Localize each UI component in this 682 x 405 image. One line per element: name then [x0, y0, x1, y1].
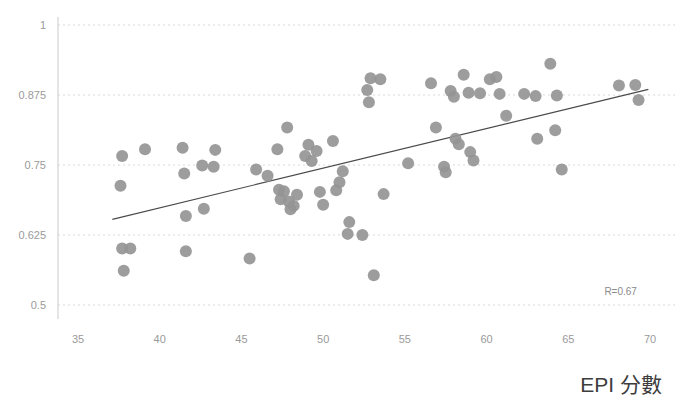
data-point — [458, 69, 470, 81]
x-tick-label-65: 65 — [562, 333, 574, 345]
data-point — [463, 87, 475, 99]
data-point — [114, 180, 126, 192]
x-tick-label-35: 35 — [72, 333, 84, 345]
data-point — [518, 88, 530, 100]
data-point — [425, 77, 437, 89]
data-point — [333, 176, 345, 188]
y-tick-label-0.625: 0.625 — [18, 229, 46, 241]
x-tick-label-45: 45 — [235, 333, 247, 345]
data-point — [490, 71, 502, 83]
data-point — [531, 133, 543, 145]
data-point — [448, 91, 460, 103]
data-point — [337, 165, 349, 177]
data-point — [281, 121, 293, 133]
data-point — [453, 138, 465, 150]
data-point — [430, 121, 442, 133]
data-point — [178, 167, 190, 179]
data-point — [139, 143, 151, 155]
data-point — [530, 90, 542, 102]
data-point — [551, 90, 563, 102]
y-tick-label-1: 1 — [40, 19, 46, 31]
data-point — [288, 200, 300, 212]
trendline — [112, 89, 648, 219]
y-tick-label-0.875: 0.875 — [18, 89, 46, 101]
data-point — [208, 161, 220, 173]
data-point — [327, 135, 339, 147]
data-point — [363, 96, 375, 108]
data-point — [198, 203, 210, 215]
data-point — [317, 199, 329, 211]
data-point — [378, 188, 390, 200]
data-point — [244, 253, 256, 265]
data-point — [116, 150, 128, 162]
x-tick-label-55: 55 — [399, 333, 411, 345]
data-point — [613, 79, 625, 91]
data-point — [291, 189, 303, 201]
data-point — [494, 88, 506, 100]
data-point — [374, 73, 386, 85]
plot-area: 0.50.6250.750.8751 3540455055606570 R=0.… — [0, 0, 682, 405]
x-tick-label-60: 60 — [480, 333, 492, 345]
data-point — [556, 163, 568, 175]
data-point — [474, 87, 486, 99]
data-point — [549, 124, 561, 136]
data-point — [343, 216, 355, 228]
data-point — [467, 155, 479, 167]
data-point — [196, 160, 208, 172]
data-point — [262, 170, 274, 182]
gridlines-group — [58, 25, 676, 305]
data-points-group — [114, 58, 644, 282]
annotations-group: R=0.67 — [604, 286, 637, 297]
correlation-annotation: R=0.67 — [604, 286, 637, 297]
data-point — [271, 143, 283, 155]
data-point — [180, 245, 192, 257]
data-point — [402, 157, 414, 169]
y-tick-labels-group: 0.50.6250.750.8751 — [18, 19, 46, 311]
data-point — [177, 142, 189, 154]
scatter-chart: 0.50.6250.750.8751 3540455055606570 R=0.… — [0, 0, 682, 405]
data-point — [311, 145, 323, 157]
x-tick-labels-group: 3540455055606570 — [72, 333, 656, 345]
data-point — [361, 84, 373, 96]
y-tick-label-0.75: 0.75 — [25, 159, 46, 171]
y-tick-label-0.5: 0.5 — [31, 299, 46, 311]
data-point — [633, 94, 645, 106]
x-axis-title: EPI 分數 — [580, 373, 662, 396]
data-point — [368, 269, 380, 281]
regression-line — [112, 89, 648, 219]
data-point — [500, 110, 512, 122]
data-point — [440, 166, 452, 178]
x-tick-label-70: 70 — [644, 333, 656, 345]
data-point — [250, 163, 262, 175]
x-tick-label-50: 50 — [317, 333, 329, 345]
data-point — [124, 242, 136, 254]
data-point — [180, 210, 192, 222]
x-tick-label-40: 40 — [154, 333, 166, 345]
data-point — [544, 58, 556, 70]
data-point — [118, 265, 130, 277]
data-point — [356, 229, 368, 241]
data-point — [314, 186, 326, 198]
data-point — [209, 144, 221, 156]
data-point — [342, 228, 354, 240]
data-point — [629, 79, 641, 91]
